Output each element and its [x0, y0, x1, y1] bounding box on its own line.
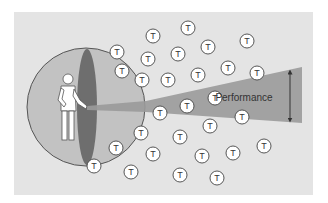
svg-text:T: T: [185, 23, 191, 33]
svg-text:T: T: [177, 170, 183, 180]
node-t: T: [153, 106, 167, 120]
node-t: T: [240, 34, 254, 48]
node-t: T: [171, 47, 185, 61]
svg-text:T: T: [145, 54, 151, 64]
svg-text:T: T: [157, 108, 163, 118]
svg-text:T: T: [150, 149, 156, 159]
svg-text:T: T: [114, 47, 120, 57]
svg-text:T: T: [230, 148, 236, 158]
svg-text:T: T: [184, 101, 190, 111]
svg-text:T: T: [225, 63, 231, 73]
person-head: [63, 74, 73, 84]
node-t: T: [235, 110, 249, 124]
node-t: T: [180, 99, 194, 113]
svg-text:T: T: [254, 68, 260, 78]
svg-text:T: T: [199, 151, 205, 161]
svg-text:T: T: [239, 112, 245, 122]
svg-text:T: T: [175, 49, 181, 59]
node-t: T: [203, 119, 217, 133]
person-leg-left: [62, 111, 67, 140]
node-t: T: [201, 40, 215, 54]
node-t: T: [181, 21, 195, 35]
node-t: T: [161, 73, 175, 87]
svg-text:T: T: [205, 42, 211, 52]
node-t: T: [173, 168, 187, 182]
performance-label: Performance: [215, 92, 273, 103]
node-t: T: [146, 29, 160, 43]
performance-diagram: TTTTTTTTTTTTTTTTTTTTTTTTTTTTT Performanc…: [0, 0, 328, 203]
svg-text:T: T: [113, 143, 119, 153]
svg-text:T: T: [119, 66, 125, 76]
svg-text:T: T: [214, 173, 220, 183]
node-t: T: [173, 130, 187, 144]
node-t: T: [195, 149, 209, 163]
svg-text:T: T: [244, 36, 250, 46]
node-t: T: [109, 141, 123, 155]
node-t: T: [141, 52, 155, 66]
svg-text:T: T: [165, 75, 171, 85]
node-t: T: [87, 159, 101, 173]
svg-text:T: T: [150, 31, 156, 41]
node-t: T: [146, 147, 160, 161]
node-t: T: [226, 146, 240, 160]
svg-text:T: T: [139, 75, 145, 85]
node-t: T: [210, 171, 224, 185]
svg-text:T: T: [138, 128, 144, 138]
svg-text:T: T: [207, 121, 213, 131]
node-t: T: [135, 73, 149, 87]
node-t: T: [257, 139, 271, 153]
node-t: T: [110, 45, 124, 59]
node-t: T: [124, 165, 138, 179]
svg-text:T: T: [91, 161, 97, 171]
svg-text:T: T: [195, 70, 201, 80]
node-t: T: [221, 61, 235, 75]
node-t: T: [115, 64, 129, 78]
node-t: T: [191, 68, 205, 82]
svg-text:T: T: [128, 167, 134, 177]
svg-text:T: T: [177, 132, 183, 142]
svg-text:T: T: [261, 141, 267, 151]
node-t: T: [250, 66, 264, 80]
node-t: T: [134, 126, 148, 140]
person-leg-right: [69, 111, 74, 140]
